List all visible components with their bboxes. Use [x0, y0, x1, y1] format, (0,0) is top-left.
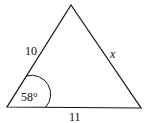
triangle-diagram: 10 x 58° 11 — [0, 0, 145, 123]
side-left-label: 10 — [25, 45, 37, 57]
triangle-shape — [0, 0, 145, 123]
angle-label: 58° — [21, 91, 38, 103]
side-right-label: x — [110, 48, 115, 60]
side-bottom-label: 11 — [69, 111, 81, 123]
